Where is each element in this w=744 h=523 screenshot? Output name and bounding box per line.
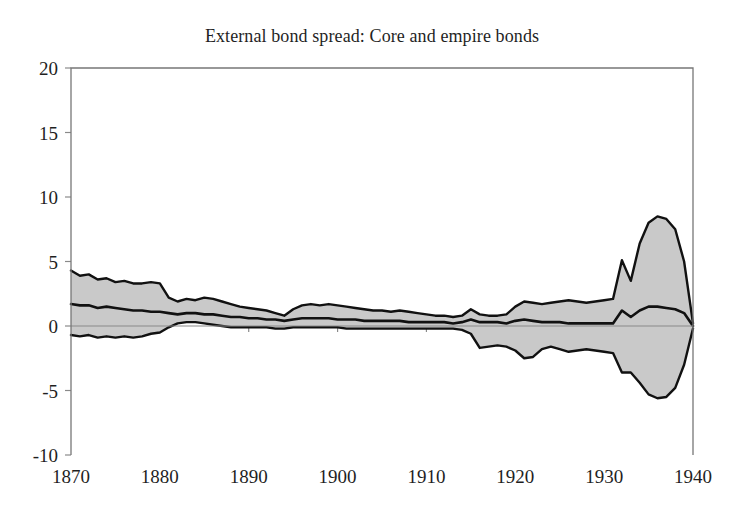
figure-container: External bond spread: Core and empire bo…: [0, 0, 744, 523]
y-tick-label: -5: [42, 381, 58, 402]
x-tick-label: 1920: [496, 466, 534, 487]
x-tick-label: 1930: [585, 466, 623, 487]
y-tick-label: -10: [33, 445, 58, 466]
y-tick-label: 20: [39, 58, 58, 79]
x-tick-label: 1940: [674, 466, 712, 487]
confidence-band-fill: [71, 216, 693, 398]
plot-frame: [71, 68, 693, 455]
chart-plot-area: -10-505101520 18701880189019001910192019…: [0, 0, 744, 523]
y-axis-tickmarks: [65, 68, 71, 455]
y-tick-label: 10: [39, 187, 58, 208]
x-tick-label: 1870: [52, 466, 90, 487]
y-axis-tick-labels: -10-505101520: [33, 58, 58, 466]
x-tick-label: 1890: [230, 466, 268, 487]
y-tick-label: 15: [39, 123, 58, 144]
y-tick-label: 0: [49, 316, 59, 337]
x-tick-label: 1900: [319, 466, 357, 487]
x-axis-tick-labels: 18701880189019001910192019301940: [52, 466, 712, 487]
x-tick-label: 1910: [407, 466, 445, 487]
x-tick-label: 1880: [141, 466, 179, 487]
y-tick-label: 5: [49, 252, 59, 273]
